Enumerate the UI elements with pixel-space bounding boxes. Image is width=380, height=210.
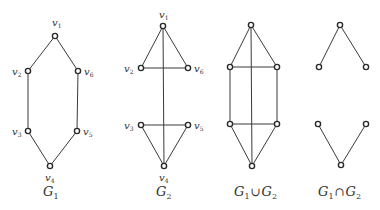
edge-v4-v5: [50, 131, 77, 166]
vertex-label-v3: v3: [12, 126, 22, 138]
vertex-v4: [47, 163, 52, 168]
edge-v1-v2: [230, 25, 251, 67]
vertex-label-v5: v5: [83, 126, 93, 138]
vertex-v3: [315, 121, 320, 126]
edge-v6-v1: [55, 36, 78, 71]
vertex-label-v1: v1: [52, 17, 61, 29]
vertex-v4: [249, 163, 254, 168]
vertex-v5: [185, 122, 190, 127]
edge-v1-v4: [251, 25, 252, 166]
edge-v1-v6: [340, 25, 366, 67]
edge-v1-v2: [319, 25, 340, 67]
vertex-v2: [316, 64, 321, 69]
graph-caption: G1∪G2: [234, 184, 277, 201]
edge-v3-v4: [230, 124, 252, 166]
vertex-label-v3: v3: [124, 120, 134, 132]
vertex-v2: [138, 65, 143, 70]
vertex-v1: [160, 23, 165, 28]
vertex-v6: [274, 64, 279, 69]
vertex-v4: [161, 163, 166, 168]
edge-v4-v3: [141, 125, 164, 166]
edge-v6-v1: [163, 26, 188, 68]
edge-v1-v6: [251, 25, 277, 67]
vertex-label-v4: v4: [45, 172, 55, 184]
edge-v5-v6: [77, 71, 78, 131]
graph-diagram: v1v2v3v4v5v6G1v1v2v3v4v5v6G2G1∪G2G1∩G2: [0, 0, 380, 210]
vertex-label-v5: v5: [194, 120, 204, 132]
vertex-v5: [74, 128, 79, 133]
graph-figure: v1v2v3v4v5v6G1v1v2v3v4v5v6G2G1∪G2G1∩G2: [0, 0, 380, 210]
vertex-v1: [248, 22, 253, 27]
edge-v3-v4: [28, 131, 50, 166]
vertex-label-v6: v6: [194, 63, 204, 75]
vertex-v5: [363, 121, 368, 126]
graph-caption: G1∩G2: [318, 184, 361, 201]
graph-caption: G2: [156, 184, 171, 201]
vertex-label-v2: v2: [12, 66, 22, 78]
graph-g1: v1v2v3v4v5v6G1: [12, 17, 94, 201]
vertex-v1: [52, 33, 57, 38]
vertex-v1: [337, 22, 342, 27]
graph-g1-union-g2: G1∪G2: [227, 22, 279, 201]
edge-v3-v4: [318, 124, 341, 165]
vertex-label-v4: v4: [159, 172, 169, 184]
vertex-v3: [227, 121, 232, 126]
edge-v1-v2: [28, 36, 55, 71]
edge-v1-v2: [141, 26, 163, 68]
vertex-v6: [75, 68, 80, 73]
vertex-label-v6: v6: [84, 66, 94, 78]
vertex-v3: [138, 122, 143, 127]
edge-v5-v4: [252, 124, 277, 166]
vertex-v2: [25, 68, 30, 73]
vertex-v6: [185, 65, 190, 70]
vertex-label-v2: v2: [124, 63, 134, 75]
edge-v4-v5: [341, 124, 366, 165]
graph-g2: v1v2v3v4v5v6G2: [124, 9, 204, 201]
vertex-v5: [274, 121, 279, 126]
edge-v5-v4: [164, 125, 188, 166]
graph-caption: G1: [43, 184, 58, 201]
vertex-v4: [338, 162, 343, 167]
edge-v1-v4: [163, 26, 164, 166]
vertex-v3: [25, 128, 30, 133]
graph-g1-intersect-g2: G1∩G2: [315, 22, 368, 201]
vertex-v6: [363, 64, 368, 69]
vertex-v2: [227, 64, 232, 69]
vertex-label-v1: v1: [159, 9, 168, 21]
